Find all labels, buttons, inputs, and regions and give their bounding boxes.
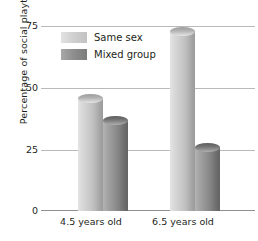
y-tick-label-0: 0	[14, 206, 38, 216]
y-tick-label-75: 75	[14, 21, 38, 31]
bar-top-cap	[170, 27, 195, 36]
legend-swatch-mixed-group	[61, 49, 87, 60]
legend-label-same-sex: Same sex	[94, 32, 143, 43]
gridline-25	[41, 150, 255, 151]
bar-top-cap	[103, 116, 128, 125]
bar-top-cap	[195, 143, 220, 152]
y-tick-label-50: 50	[14, 83, 38, 93]
gridline-75	[41, 26, 255, 27]
bar-chart: Percentage of social playtime 75 50 25 0…	[0, 0, 258, 241]
bar-mixed-group-6-5	[195, 147, 220, 211]
gridline-50	[41, 88, 255, 89]
bar-body	[78, 98, 103, 211]
bar-body	[195, 147, 220, 211]
bar-body	[170, 31, 195, 211]
y-tick-label-25: 25	[14, 145, 38, 155]
legend: Same sex Mixed group	[61, 30, 156, 64]
bar-same-sex-4-5	[78, 98, 103, 211]
legend-item-mixed-group: Mixed group	[61, 47, 156, 61]
x-axis-baseline	[41, 210, 255, 211]
legend-swatch-same-sex	[61, 32, 87, 43]
bar-body	[103, 120, 128, 211]
x-tick-label-group-2: 6.5 years old	[128, 216, 238, 227]
bar-same-sex-6-5	[170, 31, 195, 211]
bar-top-cap	[78, 94, 103, 103]
legend-item-same-sex: Same sex	[61, 30, 156, 44]
bar-mixed-group-4-5	[103, 120, 128, 211]
legend-label-mixed-group: Mixed group	[94, 49, 156, 60]
